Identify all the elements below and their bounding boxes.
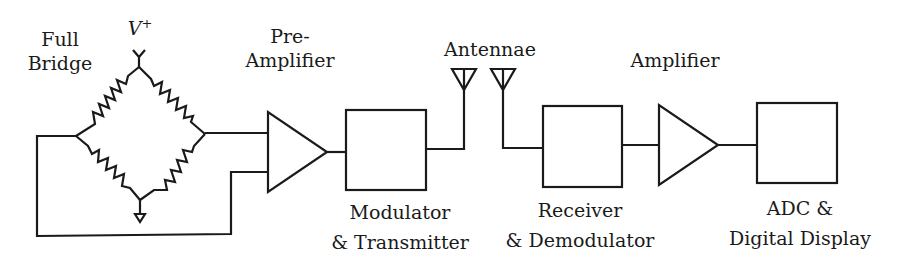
resistor-top-right — [139, 67, 205, 134]
preamp-label-line1: Pre- — [230, 24, 350, 48]
supply-symbol: V — [128, 17, 142, 39]
transmit-antenna-icon — [452, 69, 476, 90]
amplifier-triangle — [659, 105, 718, 185]
pre-amplifier-triangle — [268, 112, 327, 192]
resistor-bottom-right — [140, 134, 205, 200]
supply-terminal-icon — [133, 50, 145, 67]
resistor-top-left — [76, 67, 139, 136]
supply-voltage-label: V+ — [118, 12, 162, 40]
receive-antenna-icon — [491, 69, 515, 90]
modulator-label-line2: & Transmitter — [310, 230, 490, 254]
adc-display-box — [757, 103, 837, 183]
adc-label-line1: ADC & — [710, 196, 890, 220]
modulator-transmitter-box — [346, 110, 426, 190]
receiver-label: Receiver & Demodulator — [490, 198, 670, 252]
adc-label-line2: Digital Display — [710, 226, 890, 250]
supply-superscript: + — [141, 16, 152, 31]
antennae-label: Antennae — [425, 37, 555, 61]
resistor-bottom-left — [76, 136, 140, 200]
full-bridge-label-line2: Bridge — [25, 51, 95, 75]
preamp-label: Pre- Amplifier — [230, 24, 350, 72]
full-bridge-label-line1: Full — [25, 27, 95, 51]
full-bridge-label: Full Bridge — [25, 27, 95, 75]
receiver-label-line2: & Demodulator — [490, 228, 670, 252]
receiver-label-line1: Receiver — [490, 198, 670, 222]
receiver-demodulator-box — [543, 106, 622, 187]
adc-label: ADC & Digital Display — [710, 196, 890, 250]
ground-icon — [135, 200, 145, 222]
wire-bridge-left-loop — [37, 136, 268, 236]
modulator-label: Modulator & Transmitter — [310, 200, 490, 254]
modulator-label-line1: Modulator — [310, 200, 490, 224]
amplifier-label: Amplifier — [620, 48, 730, 72]
preamp-label-line2: Amplifier — [230, 48, 350, 72]
